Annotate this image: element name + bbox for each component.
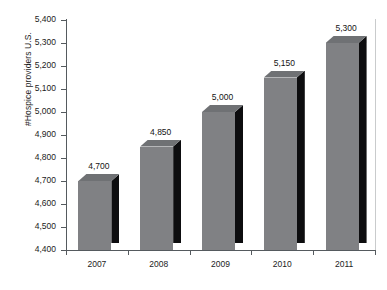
bar-value-label: 5,000	[192, 92, 253, 102]
y-axis-tick-label: 5,100	[35, 83, 56, 93]
y-axis-tick-mark	[61, 43, 67, 44]
y-axis-tick-mark	[61, 181, 67, 182]
y-axis-tick-label: 4,600	[35, 198, 56, 208]
x-axis-tick-mark	[251, 250, 252, 255]
y-axis-tick-label: 4,400	[35, 244, 56, 254]
x-axis-tick-mark	[128, 250, 129, 255]
y-axis-tick-label: 4,900	[35, 129, 56, 139]
x-axis-line	[66, 250, 376, 251]
y-axis-tick-mark	[61, 66, 67, 67]
y-axis-tick-mark	[61, 20, 67, 21]
y-axis-tick-label: 4,700	[35, 175, 56, 185]
bar-side-face	[173, 140, 181, 244]
y-axis-tick-label: 4,500	[35, 221, 56, 231]
y-axis-tick-mark	[61, 158, 67, 159]
bar-front-face	[140, 147, 173, 251]
bar-front-face	[78, 181, 111, 250]
x-axis-tick-mark	[313, 250, 314, 255]
x-axis-tick-label: 2010	[251, 259, 313, 269]
x-axis-tick-label: 2009	[190, 259, 252, 269]
plot-area-right-border	[375, 19, 376, 251]
bar-value-label: 4,850	[130, 127, 191, 137]
y-axis-tick-label: 5,000	[35, 106, 56, 116]
bar-front-face	[202, 112, 235, 250]
y-axis-tick-label: 4,800	[35, 152, 56, 162]
bar-value-label: 5,300	[316, 23, 377, 33]
x-axis-tick-label: 2007	[66, 259, 128, 269]
bar-side-face	[297, 71, 305, 244]
y-axis-tick-mark	[61, 135, 67, 136]
y-axis-tick-mark	[61, 204, 67, 205]
y-axis-title: #Hospice providers U.S.	[23, 0, 33, 159]
bar-front-face	[264, 78, 297, 251]
x-axis-tick-mark	[66, 250, 67, 255]
bar-value-label: 5,150	[254, 58, 315, 68]
y-axis-tick-label: 5,200	[35, 60, 56, 70]
bar-side-face	[111, 174, 119, 243]
x-axis-tick-mark	[190, 250, 191, 255]
x-axis-tick-mark	[375, 250, 376, 255]
y-axis-tick-label: 5,300	[35, 37, 56, 47]
bar-chart: #Hospice providers U.S. 5,4005,3005,2005…	[0, 0, 387, 290]
y-axis-tick-mark	[61, 89, 67, 90]
bar-side-face	[235, 105, 243, 243]
y-axis-tick-mark	[61, 227, 67, 228]
bar-value-label: 4,700	[68, 161, 129, 171]
y-axis-tick-mark	[61, 112, 67, 113]
y-axis-tick-label: 5,400	[35, 14, 56, 24]
x-axis-tick-label: 2011	[313, 259, 375, 269]
bar-front-face	[326, 43, 359, 250]
bar-side-face	[359, 36, 367, 243]
x-axis-tick-label: 2008	[128, 259, 190, 269]
